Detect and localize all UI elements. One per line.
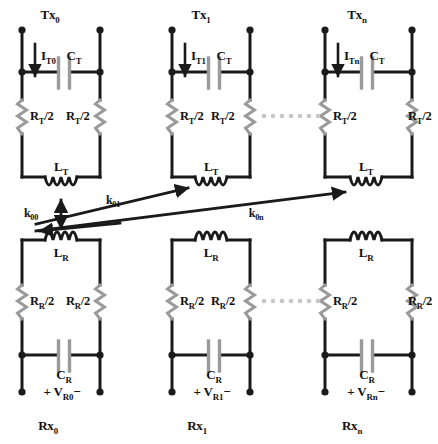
figure-canvas: Tx0 Tx1 Txn IT0 IT1 ITn CT CT CT RT/2 RT…: [0, 0, 438, 444]
tx1-resistor-left-label: RT/2: [180, 110, 204, 125]
ellipsis-row-tx: [262, 114, 321, 119]
rxn-resistor-left: [321, 285, 330, 319]
tx1-current-label: IT1: [191, 49, 206, 65]
tx1-resistor-left: [168, 100, 177, 134]
rx0-voltage-label: + VR0−: [44, 385, 81, 401]
k0n-label: k0n: [249, 207, 264, 223]
k01-label: k01: [106, 194, 120, 210]
rx0-resistor-right-label: RR/2: [66, 295, 90, 310]
rx1-resistor-right: [246, 285, 255, 319]
rxn-capacitor-label: CR: [359, 368, 374, 384]
rx0-resistor-left-label: RR/2: [30, 295, 54, 310]
txn-resistor-left-label: RT/2: [333, 110, 357, 125]
tx0-terminal-right: [96, 26, 103, 33]
tx0-current-label: IT0: [41, 49, 56, 65]
rx0-inductor-label: LR: [54, 246, 69, 262]
tx0-resistor-left-label: RT/2: [30, 110, 54, 125]
rxn-title: Rxn: [342, 419, 362, 435]
rx1-inductor: [195, 232, 227, 240]
tx0-resistor-right: [96, 100, 105, 134]
tx0-resistor-left: [18, 100, 27, 134]
rx0-terminal-left: [18, 388, 25, 395]
txn-capacitor-label: CT: [370, 49, 385, 65]
rxn-inductor: [350, 232, 382, 240]
tx1-capacitor-label: CT: [217, 49, 232, 65]
rx1-capacitor-label: CR: [206, 368, 221, 384]
tx0-capacitor-label: CT: [67, 49, 82, 65]
rx0-capacitor-label: CR: [56, 368, 71, 384]
rx1-resistor-left-label: RR/2: [180, 295, 204, 310]
rx0-resistor-left: [18, 285, 27, 319]
txn-title: Txn: [347, 8, 367, 24]
tx1-inductor-label: LT: [204, 160, 218, 176]
rxn-inductor-label: LR: [359, 246, 374, 262]
tx1-resistor-right-label: RT/2: [211, 110, 235, 125]
rxn-voltage-label: + VRn−: [347, 385, 384, 401]
rxn-resistor-left-label: RR/2: [333, 295, 357, 310]
rx1-resistor-left: [168, 285, 177, 319]
tx1-title: Tx1: [192, 8, 211, 24]
tx0-inductor: [45, 177, 77, 185]
ellipsis-row-rx: [262, 299, 321, 304]
tx0-resistor-right-label: RT/2: [66, 110, 90, 125]
rx0-inductor: [45, 232, 77, 240]
rx1-title: Rx1: [187, 419, 207, 435]
txn-inductor-label: LT: [359, 160, 373, 176]
rx1-resistor-right-label: RR/2: [211, 295, 235, 310]
txn-resistor-right-label: RT/2: [408, 110, 432, 125]
txn-current-label: ITn: [344, 49, 359, 65]
tx0-title: Tx0: [41, 8, 60, 24]
txn-resistor-left: [321, 100, 330, 134]
rx1-voltage-label: + VR1−: [194, 385, 231, 401]
k00-label: k00: [24, 207, 38, 223]
txn-inductor: [350, 177, 382, 185]
k0n-arrow: [36, 192, 345, 231]
rx1-inductor-label: LR: [204, 246, 219, 262]
tx0-terminal-left: [18, 26, 25, 33]
rx0-title: Rx0: [38, 419, 58, 435]
rx0-resistor-right: [96, 285, 105, 319]
tx1-resistor-right: [246, 100, 255, 134]
tx0-inductor-label: LT: [54, 160, 68, 176]
rxn-resistor-right-label: RR/2: [408, 295, 432, 310]
rx0-terminal-right: [96, 388, 103, 395]
tx1-inductor: [195, 177, 227, 185]
